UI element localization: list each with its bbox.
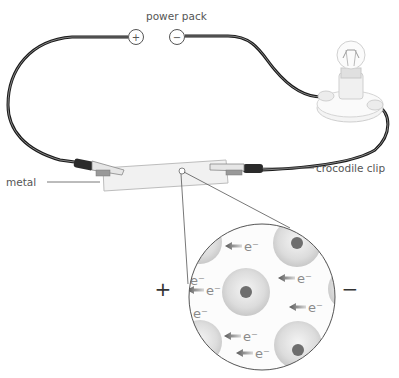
positive-sign: + bbox=[155, 277, 172, 301]
ion bbox=[178, 320, 222, 364]
electron: e⁻ bbox=[193, 306, 208, 321]
positive-terminal: + bbox=[129, 30, 144, 45]
metal-label: metal bbox=[6, 176, 36, 188]
ion bbox=[274, 321, 322, 369]
ion bbox=[222, 268, 270, 316]
light-bulb bbox=[317, 41, 383, 122]
svg-text:e⁻: e⁻ bbox=[243, 329, 258, 344]
svg-text:e⁻: e⁻ bbox=[206, 283, 221, 298]
power-pack-label: power pack bbox=[146, 10, 208, 22]
svg-text:e⁻: e⁻ bbox=[255, 346, 270, 361]
crocodile-clip-label: crocodile clip bbox=[316, 162, 385, 174]
magnified-point bbox=[179, 168, 185, 174]
svg-text:e⁻: e⁻ bbox=[297, 271, 312, 286]
svg-text:e⁻: e⁻ bbox=[308, 300, 323, 315]
magnifier-line-left bbox=[181, 174, 188, 284]
negative-terminal: − bbox=[170, 30, 185, 45]
metal-strip bbox=[103, 160, 228, 191]
wire-top bbox=[185, 36, 322, 97]
svg-text:−: − bbox=[173, 32, 181, 43]
power-pack: power pack + − bbox=[129, 10, 208, 45]
negative-sign: − bbox=[342, 277, 359, 301]
ion bbox=[332, 222, 348, 238]
svg-text:e⁻: e⁻ bbox=[244, 239, 259, 254]
svg-text:e⁻: e⁻ bbox=[193, 306, 208, 321]
svg-text:+: + bbox=[132, 32, 140, 43]
circuit-diagram: power pack + − metal bbox=[0, 0, 399, 378]
wire-left bbox=[8, 37, 128, 163]
magnifier-line-right bbox=[184, 172, 290, 228]
